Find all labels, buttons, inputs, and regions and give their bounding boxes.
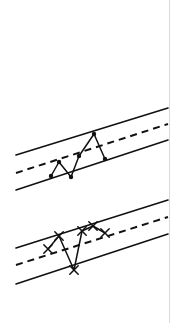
- upper-chart-bands: [16, 108, 168, 190]
- data-point-marker: [103, 157, 107, 161]
- upper-chart-data-markers: [49, 132, 107, 179]
- lower-chart: [16, 200, 168, 284]
- upper-chart: [16, 108, 168, 190]
- data-point-marker: [57, 160, 61, 164]
- data-point-marker: [49, 174, 53, 178]
- data-point-marker: [101, 229, 109, 237]
- data-point-marker: [77, 154, 81, 158]
- figure-page: [0, 0, 175, 323]
- lower-chart-bands: [16, 200, 168, 284]
- data-point-marker: [69, 175, 73, 179]
- data-point-marker: [44, 245, 52, 253]
- data-point-marker: [92, 132, 96, 136]
- trend-chart-figure: [0, 0, 175, 323]
